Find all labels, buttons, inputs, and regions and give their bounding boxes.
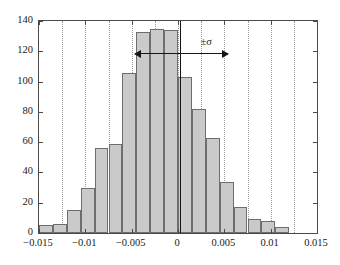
y-tick-mark xyxy=(39,51,43,52)
histogram-bar xyxy=(67,210,81,233)
x-tick-mark xyxy=(317,229,318,233)
x-tick-mark-top xyxy=(317,21,318,25)
y-tick-mark xyxy=(39,233,43,234)
gridline-vertical xyxy=(271,21,272,233)
histogram-bar xyxy=(122,73,136,234)
histogram-bar xyxy=(95,148,109,233)
y-tick-mark-right xyxy=(313,142,317,143)
y-axis-tick-label: 80 xyxy=(23,106,34,116)
histogram-bar xyxy=(39,225,53,233)
histogram-bar xyxy=(81,188,95,233)
x-tick-mark xyxy=(224,229,225,233)
histogram-bar xyxy=(109,144,123,233)
y-axis-tick-label: 120 xyxy=(17,45,33,55)
y-tick-mark-right xyxy=(313,82,317,83)
plot-area: ±σ xyxy=(38,20,318,234)
x-tick-mark-top xyxy=(224,21,225,25)
x-tick-mark xyxy=(39,229,40,233)
histogram-bar xyxy=(53,224,67,233)
histogram-bar xyxy=(234,207,248,233)
y-tick-mark-right xyxy=(313,172,317,173)
histogram-figure: ±σ 020406080100120140−0.015−0.01−0.00500… xyxy=(0,0,340,265)
histogram-bar xyxy=(248,219,262,233)
sigma-annotation-label: ±σ xyxy=(201,36,212,47)
sigma-span-arrow xyxy=(135,53,229,54)
x-tick-mark-top xyxy=(85,21,86,25)
gridline-vertical xyxy=(62,21,63,233)
histogram-bar xyxy=(136,32,150,233)
histogram-bar xyxy=(164,30,178,233)
gridline-vertical xyxy=(294,21,295,233)
histogram-bar xyxy=(150,29,164,233)
x-tick-mark xyxy=(178,229,179,233)
histogram-bar xyxy=(206,138,220,233)
x-tick-mark xyxy=(85,229,86,233)
arrow-head-right-icon xyxy=(222,50,229,58)
histogram-bar xyxy=(192,109,206,233)
gridline-vertical xyxy=(248,21,249,233)
y-tick-mark xyxy=(39,203,43,204)
histogram-bar xyxy=(275,227,289,233)
y-tick-mark xyxy=(39,172,43,173)
y-axis-tick-label: 40 xyxy=(23,166,34,176)
arrow-head-left-icon xyxy=(134,50,141,58)
y-tick-mark-right xyxy=(313,51,317,52)
x-tick-mark-top xyxy=(132,21,133,25)
x-tick-mark-top xyxy=(271,21,272,25)
y-tick-mark-right xyxy=(313,203,317,204)
histogram-bar xyxy=(220,182,234,233)
y-axis-tick-label: 60 xyxy=(23,136,34,146)
y-tick-mark-right xyxy=(313,233,317,234)
y-tick-mark xyxy=(39,82,43,83)
y-axis-tick-label: 20 xyxy=(23,197,34,207)
x-tick-mark xyxy=(271,229,272,233)
x-axis-tick-label: 0.015 xyxy=(286,237,340,248)
y-axis-tick-label: 100 xyxy=(17,76,33,86)
y-tick-mark-right xyxy=(313,112,317,113)
x-tick-mark xyxy=(132,229,133,233)
x-tick-mark-top xyxy=(178,21,179,25)
y-axis-tick-label: 0 xyxy=(28,227,33,237)
histogram-bar xyxy=(261,221,275,233)
y-tick-mark xyxy=(39,142,43,143)
y-tick-mark xyxy=(39,112,43,113)
x-tick-mark-top xyxy=(39,21,40,25)
y-axis-tick-label: 140 xyxy=(17,15,33,25)
